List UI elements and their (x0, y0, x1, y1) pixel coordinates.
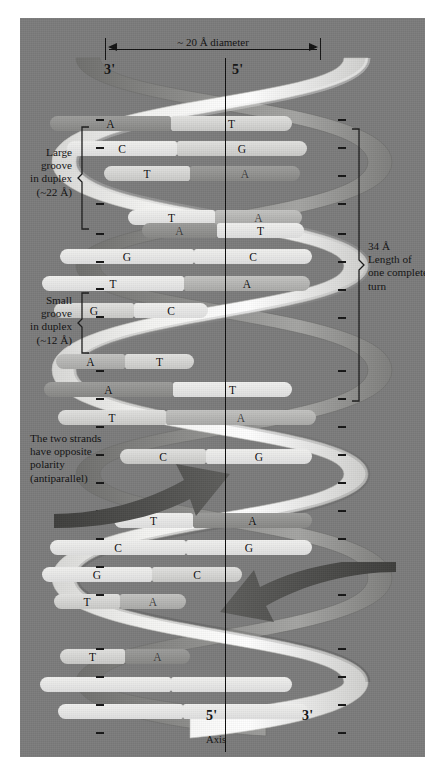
base-right: T (125, 354, 194, 369)
phosphate-tick (338, 704, 346, 706)
base-left: A (44, 382, 173, 397)
note-polarity-l3: polarity (30, 458, 140, 471)
note-polarity-l2: have opposite (30, 445, 140, 458)
bracket-large-groove (77, 126, 90, 230)
base-letter-right: A (254, 212, 262, 224)
base-letter-right: T (257, 225, 264, 237)
note-small-groove-l2: groove (20, 307, 72, 320)
base-right: T (217, 223, 304, 238)
base-left: A (56, 354, 125, 369)
base-letter-left: T (83, 596, 90, 608)
base-left: T (104, 166, 190, 181)
note-large-groove: Large groove in duplex (~22 Å) (20, 146, 72, 199)
phosphate-tick (338, 370, 346, 372)
note-polarity-l4: (antiparallel) (30, 472, 140, 485)
base-letter-left: A (104, 384, 112, 396)
base-letter-right: G (245, 542, 253, 554)
note-one-turn-l1: 34 Å (368, 240, 425, 253)
diameter-dimension: ~ 20 Å diameter (105, 38, 321, 60)
base-letter-right: T (228, 118, 235, 130)
base-right: A (125, 649, 190, 664)
phosphate-tick (96, 704, 104, 706)
note-large-groove-l4: (~22 Å) (20, 186, 72, 199)
phosphate-tick (338, 317, 346, 319)
note-one-turn-l4: turn (368, 280, 425, 293)
base-left (58, 704, 183, 719)
base-letter-right: A (248, 515, 256, 527)
diameter-label: ~ 20 Å diameter (172, 36, 254, 48)
phosphate-tick (96, 288, 104, 290)
base-pair-row: CG (50, 540, 312, 555)
base-letter-right: A (243, 278, 251, 290)
base-letter-left: T (109, 278, 116, 290)
base-letter-left: T (150, 515, 157, 527)
base-right: C (134, 303, 208, 318)
phosphate-tick (338, 510, 346, 512)
base-letter-right: T (156, 356, 163, 368)
label-axis-caption: Axis (206, 734, 226, 747)
phosphate-tick (96, 732, 104, 734)
phosphate-tick (96, 676, 104, 678)
phosphate-tick (338, 119, 346, 121)
base-left: A (50, 116, 171, 131)
label-bottom-right-3prime: 3' (302, 708, 313, 725)
base-right: T (173, 382, 292, 397)
base-letter-right: A (153, 651, 161, 663)
label-top-right-5prime: 5' (232, 62, 243, 79)
phosphate-tick (338, 398, 346, 400)
base-letter-left: T (108, 412, 115, 424)
base-pair-row: AT (44, 382, 292, 397)
phosphate-tick (338, 426, 346, 428)
phosphate-tick (96, 203, 104, 205)
phosphate-tick (338, 676, 346, 678)
base-left (40, 677, 171, 692)
base-letter-right: A (237, 412, 245, 424)
dimension-tick-left (105, 38, 106, 60)
phosphate-tick (96, 426, 104, 428)
base-right: A (190, 166, 300, 181)
base-right (183, 704, 308, 719)
phosphate-tick (338, 147, 346, 149)
phosphate-tick (96, 398, 104, 400)
base-pair-row (58, 704, 308, 719)
base-letter-right: G (255, 451, 263, 463)
phosphate-tick (338, 482, 346, 484)
base-pair-row: TA (54, 594, 186, 609)
base-letter-left: C (159, 451, 167, 463)
note-large-groove-l1: Large (20, 146, 72, 159)
base-letter-left: G (123, 251, 131, 263)
base-letter-right: A (241, 168, 249, 180)
note-one-turn-l2: Length of (368, 253, 425, 266)
dimension-bar (109, 49, 317, 50)
base-letter-right: A (149, 596, 157, 608)
phosphate-tick (338, 454, 346, 456)
base-left: T (54, 594, 120, 609)
base-pair-row: TA (58, 410, 316, 425)
helix-axis-line (225, 58, 226, 752)
base-left: T (42, 276, 184, 291)
label-bottom-left-5prime: 5' (206, 708, 217, 725)
base-right (171, 677, 292, 692)
base-pair-row (40, 677, 292, 692)
phosphate-tick (96, 594, 104, 596)
base-letter-left: G (93, 569, 101, 581)
base-letter-left: T (168, 212, 175, 224)
phosphate-tick (338, 261, 346, 263)
base-letter-right: C (167, 305, 175, 317)
base-right: A (120, 594, 186, 609)
base-letter-right: C (193, 569, 201, 581)
base-left: G (42, 567, 152, 582)
dna-figure: ATCGTATAATGCTAGCATATTACGTACGGCTATA (0, 0, 445, 777)
bracket-one-turn (350, 128, 365, 402)
phosphate-tick (338, 233, 346, 235)
arrowhead-left-icon (108, 43, 117, 51)
phosphate-tick (338, 175, 346, 177)
base-right: C (194, 249, 312, 264)
phosphate-tick (96, 648, 104, 650)
base-right: A (166, 410, 316, 425)
base-letter-left: C (118, 143, 126, 155)
phosphate-tick (338, 648, 346, 650)
bracket-small-groove (77, 292, 90, 354)
phosphate-tick (96, 119, 104, 121)
dimension-tick-right (320, 38, 321, 60)
